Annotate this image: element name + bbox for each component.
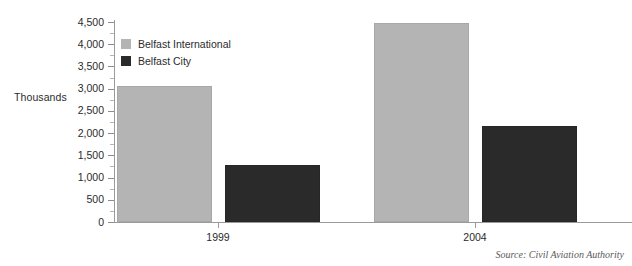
y-tick-label: 3,500 <box>46 60 104 72</box>
y-tick-label: 3,000 <box>46 82 104 94</box>
y-tick-label: 1,500 <box>46 149 104 161</box>
y-tick-label: 2,500 <box>46 104 104 116</box>
legend-label: Belfast International <box>138 38 231 50</box>
bar-1999-city[interactable] <box>225 165 320 222</box>
chart-legend: Belfast International Belfast City <box>121 36 231 70</box>
legend-item-belfast-city[interactable]: Belfast City <box>121 53 231 68</box>
y-tick-label: 4,000 <box>46 38 104 50</box>
bar-chart: Thousands 05001,0001,5002,0002,5003,0003… <box>0 0 632 266</box>
bar-1999-international[interactable] <box>117 86 212 222</box>
y-tick-label: 4,500 <box>46 16 104 28</box>
x-axis-category-label: 2004 <box>430 231 520 243</box>
y-tick-major <box>108 222 114 223</box>
x-tick <box>475 222 476 228</box>
legend-label: Belfast City <box>138 55 191 67</box>
x-axis-line <box>114 222 632 223</box>
legend-swatch-icon <box>121 39 131 49</box>
source-note: Source: Civil Aviation Authority <box>496 249 624 260</box>
bar-2004-city[interactable] <box>482 126 577 222</box>
y-tick-label: 0 <box>46 216 104 228</box>
legend-item-belfast-international[interactable]: Belfast International <box>121 36 231 51</box>
y-tick-label: 2,000 <box>46 127 104 139</box>
legend-swatch-icon <box>121 56 131 66</box>
x-axis-category-label: 1999 <box>173 231 263 243</box>
y-tick-label: 1,000 <box>46 171 104 183</box>
x-tick <box>218 222 219 228</box>
y-tick-label: 500 <box>46 193 104 205</box>
bar-2004-international[interactable] <box>374 23 469 222</box>
